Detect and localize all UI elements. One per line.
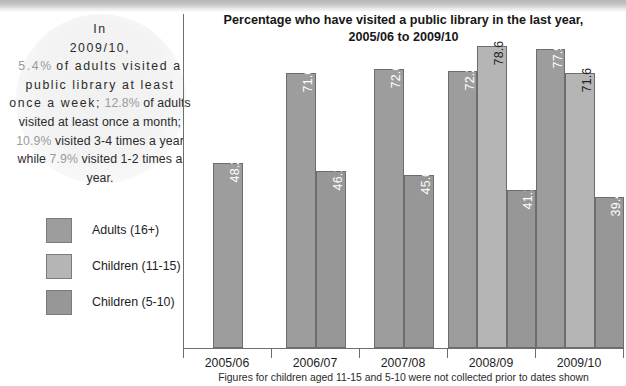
callout-text-4: visited 1-2 times a year. bbox=[82, 152, 183, 185]
legend-label-children-5-10: Children (5-10) bbox=[92, 295, 175, 309]
bar-2008-09-c510[interactable]: 41.1 bbox=[507, 190, 536, 348]
callout-stat-1: 5.4% bbox=[18, 59, 52, 73]
x-axis-tick-end bbox=[183, 349, 184, 358]
x-axis-line bbox=[183, 348, 624, 349]
bar-2006-07-c510[interactable]: 46.1 bbox=[316, 171, 346, 348]
legend-swatch-children-5-10 bbox=[46, 290, 72, 315]
callout-line2: 2009/10, bbox=[70, 41, 131, 55]
x-axis-tick bbox=[447, 349, 448, 358]
legend-item-adults[interactable]: Adults (16+) bbox=[46, 212, 181, 248]
bar-2006-07-adults[interactable]: 71.6 bbox=[286, 73, 316, 348]
x-axis-label-2007-08: 2007/08 bbox=[381, 356, 425, 370]
bar-value-label: 46.1 bbox=[331, 166, 345, 191]
callout-stat-4: 7.9% bbox=[50, 152, 78, 166]
bar-2009-10-adults[interactable]: 77.9 bbox=[536, 49, 565, 348]
bar-2007-08-c510[interactable]: 45.0 bbox=[404, 175, 434, 348]
x-axis-tick bbox=[535, 349, 536, 358]
legend-label-children-11-15: Children (11-15) bbox=[92, 259, 181, 273]
bar-value-label: 71.6 bbox=[580, 68, 594, 93]
callout-line1: In bbox=[93, 22, 106, 36]
bar-group-2005-06: 48.2 bbox=[184, 14, 272, 348]
chart-bars-area: 48.271.646.172.645.072.278.641.177.971.6… bbox=[184, 14, 624, 348]
window-header-strip bbox=[0, 0, 626, 9]
x-axis-tick-end bbox=[623, 349, 624, 358]
legend-label-adults: Adults (16+) bbox=[92, 223, 159, 237]
x-axis-labels: 2005/062006/072007/082008/092009/10 bbox=[183, 356, 624, 373]
bar-value-label: 39.4 bbox=[609, 192, 623, 217]
bar-2009-10-c510[interactable]: 39.4 bbox=[595, 197, 624, 348]
callout-stat-3: 10.9% bbox=[16, 134, 51, 148]
legend-swatch-children-11-15 bbox=[46, 254, 72, 279]
chart-legend: Adults (16+)Children (11-15)Children (5-… bbox=[46, 212, 181, 320]
x-axis-label-2006-07: 2006/07 bbox=[293, 356, 337, 370]
chart-footnote: Figures for children aged 11-15 and 5-10… bbox=[183, 372, 624, 383]
legend-item-children-5-10[interactable]: Children (5-10) bbox=[46, 284, 181, 320]
bar-value-label: 71.6 bbox=[301, 68, 315, 93]
x-axis-label-2008-09: 2008/09 bbox=[469, 356, 513, 370]
bar-2008-09-c1115[interactable]: 78.6 bbox=[477, 46, 506, 348]
bar-2008-09-adults[interactable]: 72.2 bbox=[448, 71, 477, 348]
bar-value-label: 48.2 bbox=[228, 158, 242, 183]
bar-value-label: 77.9 bbox=[551, 44, 565, 69]
x-axis-tick bbox=[359, 349, 360, 358]
legend-swatch-adults bbox=[46, 218, 72, 243]
bar-value-label: 72.2 bbox=[463, 66, 477, 91]
bar-value-label: 78.6 bbox=[492, 41, 506, 66]
callout-text: In 2009/10, 5.4% of adults visited a pub… bbox=[2, 16, 198, 187]
bar-value-label: 45.0 bbox=[419, 170, 433, 195]
x-axis-label-2005-06: 2005/06 bbox=[205, 356, 249, 370]
callout-panel: In 2009/10, 5.4% of adults visited a pub… bbox=[2, 16, 198, 191]
callout-stat-2: 12.8% bbox=[104, 96, 139, 110]
bar-2007-08-adults[interactable]: 72.6 bbox=[374, 69, 404, 348]
bar-group-2007-08: 72.645.0 bbox=[360, 14, 448, 348]
x-axis-label-2009-10: 2009/10 bbox=[557, 356, 601, 370]
bar-group-2009-10: 77.971.639.4 bbox=[536, 14, 624, 348]
bar-value-label: 41.1 bbox=[521, 185, 535, 210]
legend-item-children-11-15[interactable]: Children (11-15) bbox=[46, 248, 181, 284]
bar-value-label: 72.6 bbox=[389, 64, 403, 89]
bar-2005-06-adults[interactable]: 48.2 bbox=[213, 163, 243, 348]
bar-2009-10-c1115[interactable]: 71.6 bbox=[565, 73, 594, 348]
x-axis-tick bbox=[271, 349, 272, 358]
bar-group-2006-07: 71.646.1 bbox=[272, 14, 360, 348]
bar-group-2008-09: 72.278.641.1 bbox=[448, 14, 536, 348]
